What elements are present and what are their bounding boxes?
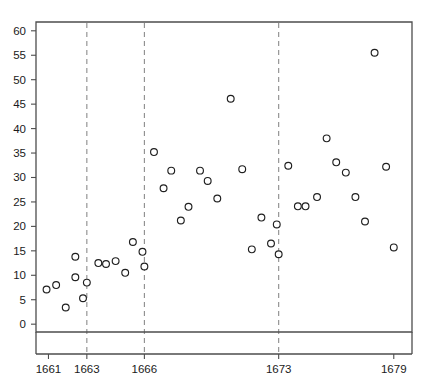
data-point [302, 203, 309, 210]
y-tick-label: 60 [13, 25, 26, 37]
data-point [185, 203, 192, 210]
data-point [139, 248, 146, 255]
data-point [197, 167, 204, 174]
data-point [95, 260, 102, 267]
data-point [323, 135, 330, 142]
data-point [43, 286, 50, 293]
data-point [227, 95, 234, 102]
data-point [314, 194, 321, 201]
data-point [390, 244, 397, 251]
y-tick-label: 0 [20, 318, 26, 330]
plot-border [36, 22, 412, 332]
data-point [112, 258, 119, 265]
vertical-reference-lines [87, 23, 279, 354]
plot-frame [36, 22, 412, 332]
y-tick-label: 40 [13, 123, 26, 135]
y-tick-labels: 051015202530354045505560 [13, 25, 26, 330]
x-tick-label: 1666 [132, 363, 158, 375]
x-tick-label: 1663 [74, 363, 100, 375]
data-point [214, 195, 221, 202]
data-point [383, 163, 390, 170]
data-point [80, 295, 87, 302]
data-point [371, 49, 378, 56]
data-point [294, 203, 301, 210]
scatter-chart: 051015202530354045505560 166116631666167… [0, 0, 427, 377]
data-point [160, 185, 167, 192]
x-tick-label: 1673 [266, 363, 292, 375]
data-point [204, 178, 211, 185]
data-point [62, 304, 69, 311]
data-point [151, 149, 158, 156]
data-point [275, 251, 282, 258]
data-point [285, 162, 292, 169]
plot-area-svg: 051015202530354045505560 166116631666167… [0, 0, 427, 377]
y-tick-label: 35 [13, 147, 26, 159]
data-point [177, 217, 184, 224]
data-point [168, 167, 175, 174]
data-point [248, 246, 255, 253]
data-point [362, 218, 369, 225]
data-point [273, 221, 280, 228]
data-point [53, 282, 60, 289]
data-point [333, 159, 340, 166]
data-point [122, 269, 129, 276]
y-axis [31, 31, 36, 324]
y-tick-label: 50 [13, 74, 26, 86]
data-point [258, 214, 265, 221]
data-point [141, 263, 148, 270]
x-axis [36, 332, 412, 359]
y-tick-label: 10 [13, 269, 26, 281]
y-tick-label: 15 [13, 245, 26, 257]
data-point [129, 239, 136, 246]
y-tick-label: 5 [20, 294, 26, 306]
data-point [72, 274, 79, 281]
y-tick-label: 55 [13, 49, 26, 61]
data-points [43, 49, 397, 311]
data-point [72, 253, 79, 260]
data-point [103, 261, 110, 268]
x-tick-label: 1661 [36, 363, 62, 375]
data-point [352, 194, 359, 201]
data-point [83, 279, 90, 286]
y-tick-label: 30 [13, 171, 26, 183]
y-tick-label: 20 [13, 220, 26, 232]
x-tick-labels: 16611663166616731679 [36, 363, 407, 375]
y-tick-label: 45 [13, 98, 26, 110]
x-tick-label: 1679 [381, 363, 407, 375]
data-point [239, 166, 246, 173]
data-point [342, 169, 349, 176]
data-point [268, 240, 275, 247]
y-tick-label: 25 [13, 196, 26, 208]
